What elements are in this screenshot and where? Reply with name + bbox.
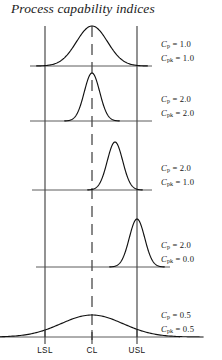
axis-label-usl: USL <box>129 346 146 355</box>
cpk-label-panel-1: Cpk = 1.0 <box>161 53 194 63</box>
cp-label-panel-3: Cp = 2.0 <box>161 163 191 173</box>
cp-label-panel-5: Cp = 0.5 <box>161 310 191 320</box>
cp-value: = 1.0 <box>170 39 191 49</box>
cp-label-panel-4: Cp = 2.0 <box>161 240 191 250</box>
cp-label-panel-2: Cp = 2.0 <box>161 94 191 104</box>
cp-value: = 2.0 <box>170 163 191 173</box>
cpk-value: = 1.0 <box>173 53 194 63</box>
cpk-label-panel-3: Cpk = 1.0 <box>161 177 194 187</box>
axis-label-cl: CL <box>86 346 97 355</box>
cpk-label-panel-5: Cpk = 0.5 <box>161 324 194 334</box>
cp-label-panel-1: Cp = 1.0 <box>161 39 191 49</box>
cpk-value: = 0.5 <box>173 324 194 334</box>
cp-value: = 2.0 <box>170 94 191 104</box>
cpk-value: = 1.0 <box>173 177 194 187</box>
cpk-value: = 2.0 <box>173 108 194 118</box>
axis-label-lsl: LSL <box>37 346 52 355</box>
cpk-value: = 0.0 <box>173 254 194 264</box>
distribution-curve-panel-3 <box>87 142 142 190</box>
cp-value: = 2.0 <box>170 240 191 250</box>
cpk-label-panel-4: Cpk = 0.0 <box>161 254 194 264</box>
cpk-label-panel-2: Cpk = 2.0 <box>161 108 194 118</box>
cp-value: = 0.5 <box>170 310 191 320</box>
